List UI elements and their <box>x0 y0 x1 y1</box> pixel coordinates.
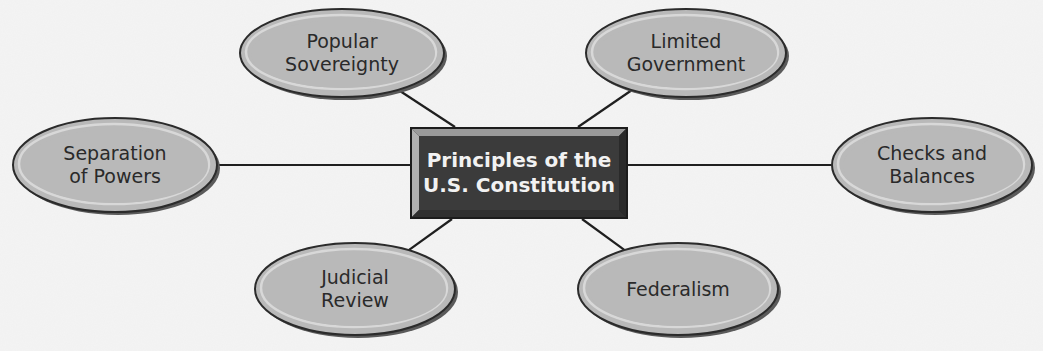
center-bevel-right <box>619 129 626 217</box>
node-inner <box>24 129 208 203</box>
center-bevel-left <box>412 129 419 217</box>
diagram-canvas <box>0 0 1043 351</box>
node-inner <box>597 20 777 88</box>
center-box <box>410 127 628 219</box>
center-bevel-top <box>412 129 626 136</box>
node-inner <box>589 254 769 326</box>
node-inner <box>843 129 1023 203</box>
center-box-face <box>419 136 619 210</box>
node-inner <box>266 254 446 326</box>
node-inner <box>251 20 435 88</box>
center-bevel-bottom <box>412 210 626 217</box>
concept-web-diagram: Popular SovereigntyLimited GovernmentSep… <box>0 0 1043 351</box>
